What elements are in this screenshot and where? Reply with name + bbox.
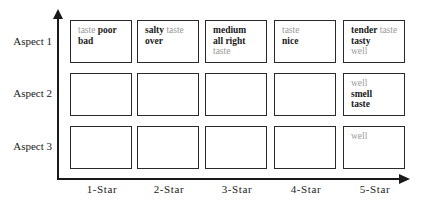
cell-aspect-2-5-star: wellsmelltaste xyxy=(343,73,405,116)
keyword: all right xyxy=(213,36,245,46)
cell-words: tastenice xyxy=(282,25,333,46)
cell-aspect-3-2-star xyxy=(137,126,199,169)
cell-line: taste xyxy=(213,46,264,57)
cell-line: taste poor xyxy=(78,25,129,36)
cell-line: taste xyxy=(282,25,333,36)
cell-line: tender taste xyxy=(351,25,402,36)
keyword: taste xyxy=(213,46,230,56)
cell-aspect-3-4-star xyxy=(274,126,336,169)
keyword: taste xyxy=(380,25,397,35)
keyword: poor xyxy=(98,25,117,35)
row-label-aspect-2: Aspect 2 xyxy=(2,87,52,99)
cell-line: taste xyxy=(351,99,402,110)
row-label-aspect-3: Aspect 3 xyxy=(2,140,52,152)
keyword: over xyxy=(145,36,163,46)
keyword: tasty xyxy=(351,36,371,46)
cell-line: over xyxy=(145,36,196,47)
keyword: nice xyxy=(282,36,298,46)
cell-line: bad xyxy=(78,36,129,47)
cell-aspect-1-4-star: tastenice xyxy=(274,20,336,63)
cell-line: well xyxy=(351,46,402,57)
keyword: taste xyxy=(78,25,95,35)
cell-aspect-1-1-star: taste poorbad xyxy=(70,20,132,63)
col-label-4-star: 4-Star xyxy=(274,183,338,195)
cell-words: salty tasteover xyxy=(145,25,196,46)
cell-aspect-3-5-star: well xyxy=(343,126,405,169)
cell-words: tender tastetastywell xyxy=(351,25,402,57)
cell-line: nice xyxy=(282,36,333,47)
cell-aspect-3-1-star xyxy=(70,126,132,169)
cell-aspect-2-3-star xyxy=(205,73,267,116)
cell-aspect-3-3-star xyxy=(205,126,267,169)
cell-aspect-1-3-star: mediumall righttaste xyxy=(205,20,267,63)
cell-line: tasty xyxy=(351,36,402,47)
cell-words: well xyxy=(351,131,402,142)
row-label-aspect-1: Aspect 1 xyxy=(2,35,52,47)
col-label-5-star: 5-Star xyxy=(343,183,407,195)
keyword: taste xyxy=(282,25,299,35)
cell-aspect-1-5-star: tender tastetastywell xyxy=(343,20,405,63)
x-axis-line xyxy=(57,178,402,180)
cell-words: mediumall righttaste xyxy=(213,25,264,57)
y-axis-arrow-icon xyxy=(53,9,63,19)
keyword: taste xyxy=(166,25,183,35)
cell-line: smell xyxy=(351,89,402,100)
col-label-2-star: 2-Star xyxy=(137,183,201,195)
keyword: smell xyxy=(351,89,372,99)
keyword: well xyxy=(351,131,367,141)
col-label-1-star: 1-Star xyxy=(70,183,134,195)
cell-line: medium xyxy=(213,25,264,36)
keyword: tender xyxy=(351,25,377,35)
y-axis-line xyxy=(57,16,59,180)
cell-line: salty taste xyxy=(145,25,196,36)
cell-aspect-2-2-star xyxy=(137,73,199,116)
keyword: bad xyxy=(78,36,93,46)
col-label-3-star: 3-Star xyxy=(205,183,269,195)
cell-aspect-2-4-star xyxy=(274,73,336,116)
cell-words: wellsmelltaste xyxy=(351,78,402,110)
cell-line: all right xyxy=(213,36,264,47)
cell-words: taste poorbad xyxy=(78,25,129,46)
keyword: salty xyxy=(145,25,164,35)
cell-line: well xyxy=(351,78,402,89)
keyword: medium xyxy=(213,25,246,35)
keyword: well xyxy=(351,78,367,88)
keyword: taste xyxy=(351,99,370,109)
aspect-rating-word-grid: Aspect 1 Aspect 2 Aspect 3 1-Star 2-Star… xyxy=(0,0,421,207)
cell-aspect-2-1-star xyxy=(70,73,132,116)
keyword: well xyxy=(351,46,367,56)
cell-line: well xyxy=(351,131,402,142)
cell-aspect-1-2-star: salty tasteover xyxy=(137,20,199,63)
